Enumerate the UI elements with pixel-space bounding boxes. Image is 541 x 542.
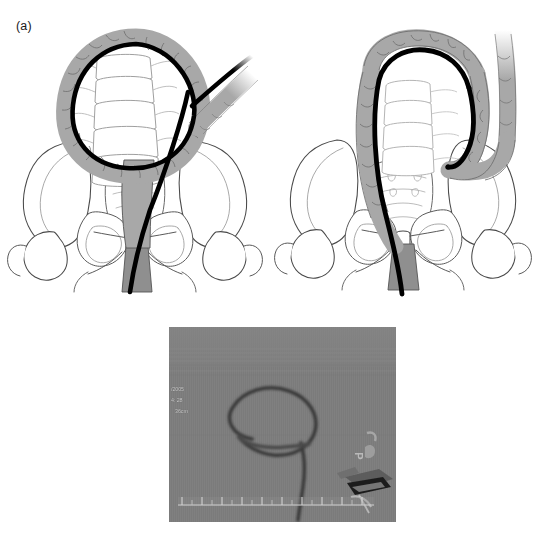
xray-overlay-depth: 36cm <box>175 408 188 415</box>
xray-overlay-date: /2005 <box>171 386 184 393</box>
catheter-tip-b <box>445 164 450 169</box>
radiograph-image: /2005 4: 28 36cm P <box>169 327 396 522</box>
xray-orientation-marker-p: P <box>353 452 365 459</box>
figure-root: (a) <box>0 0 541 542</box>
radiopaque-ruler <box>178 497 374 506</box>
xray-overlay-time: 4: 28 <box>171 397 183 404</box>
panel-c: /2005 4: 28 36cm P (c) <box>160 300 420 542</box>
panel-a: (a) <box>0 0 271 300</box>
panel-a-label: (a) <box>16 20 32 33</box>
panel-b: (b) <box>271 0 541 300</box>
radiograph-canvas <box>169 327 396 522</box>
lumbar-spine-b <box>382 80 460 175</box>
panel-b-illustration <box>271 0 541 300</box>
panel-a-illustration <box>0 0 271 300</box>
